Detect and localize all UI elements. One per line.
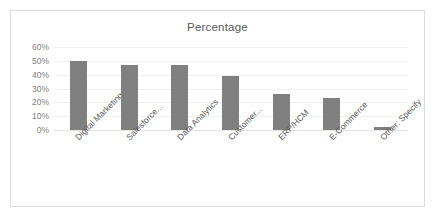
plot-area: 0%10%20%30%40%50%60%Digital MarketingSal… [53,47,408,130]
gridline [53,47,408,48]
bar [171,65,188,130]
bar [121,65,138,130]
y-axis-tick-label: 60% [32,42,49,52]
y-axis-tick-label: 30% [32,84,49,94]
x-axis-tick-label: Other: Specify [378,97,423,142]
chart-container: Percentage 0%10%20%30%40%50%60%Digital M… [10,10,425,207]
gridline [53,61,408,62]
y-axis-tick-label: 10% [32,111,49,121]
y-axis-tick-label: 50% [32,56,49,66]
y-axis-tick-label: 20% [32,97,49,107]
chart-title: Percentage [11,21,424,33]
y-axis-tick-label: 40% [32,70,49,80]
bar [222,76,239,130]
y-axis-tick-label: 0% [37,125,49,135]
bar [70,61,87,130]
